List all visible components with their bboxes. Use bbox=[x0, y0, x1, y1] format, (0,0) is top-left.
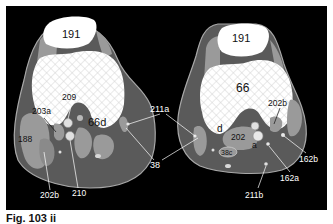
right-vessel-small bbox=[225, 164, 231, 168]
right-vessel-1 bbox=[251, 122, 259, 130]
left-label-203a: 203a bbox=[32, 106, 51, 116]
left-label-202b: 202b bbox=[40, 190, 59, 200]
right-vessel-211b bbox=[264, 162, 268, 166]
right-label-d: d bbox=[217, 123, 223, 134]
right-label-162a: 162a bbox=[280, 173, 299, 183]
left-vessel-small-2 bbox=[95, 154, 101, 158]
right-label-202: 202 bbox=[231, 132, 245, 142]
right-label-211b: 211b bbox=[245, 190, 264, 200]
left-label-210: 210 bbox=[72, 188, 86, 198]
right-label-162b: 162b bbox=[299, 154, 318, 164]
left-vessel-210 bbox=[66, 132, 75, 141]
left-vessel-dot bbox=[59, 151, 62, 154]
right-vessel-162a bbox=[266, 142, 270, 146]
left-label-66d: 66d bbox=[88, 116, 106, 128]
knee-cross-section-diagram: 191 209 203a 66d 188 202b 210 bbox=[0, 0, 333, 224]
right-vessel-dot bbox=[212, 149, 215, 152]
left-label-191: 191 bbox=[62, 28, 80, 40]
left-label-209: 209 bbox=[62, 92, 76, 102]
left-vessel-small bbox=[77, 115, 83, 121]
right-label-38c: 38c bbox=[221, 149, 233, 156]
left-knee-section: 191 209 203a 66d 188 202b 210 bbox=[14, 17, 155, 200]
right-knee-section: 191 66 202b d 202 a 38c 162b 162a 211b bbox=[178, 24, 318, 201]
label-211a: 211a bbox=[150, 104, 169, 114]
figure-caption: Fig. 103 ii bbox=[6, 212, 56, 224]
left-vessel-209 bbox=[64, 119, 73, 128]
right-label-66: 66 bbox=[236, 81, 250, 95]
left-label-188: 188 bbox=[18, 134, 32, 144]
right-label-202b: 202b bbox=[268, 98, 287, 108]
label-38: 38 bbox=[150, 160, 160, 170]
right-label-a: a bbox=[252, 140, 257, 150]
right-label-191: 191 bbox=[232, 32, 250, 44]
